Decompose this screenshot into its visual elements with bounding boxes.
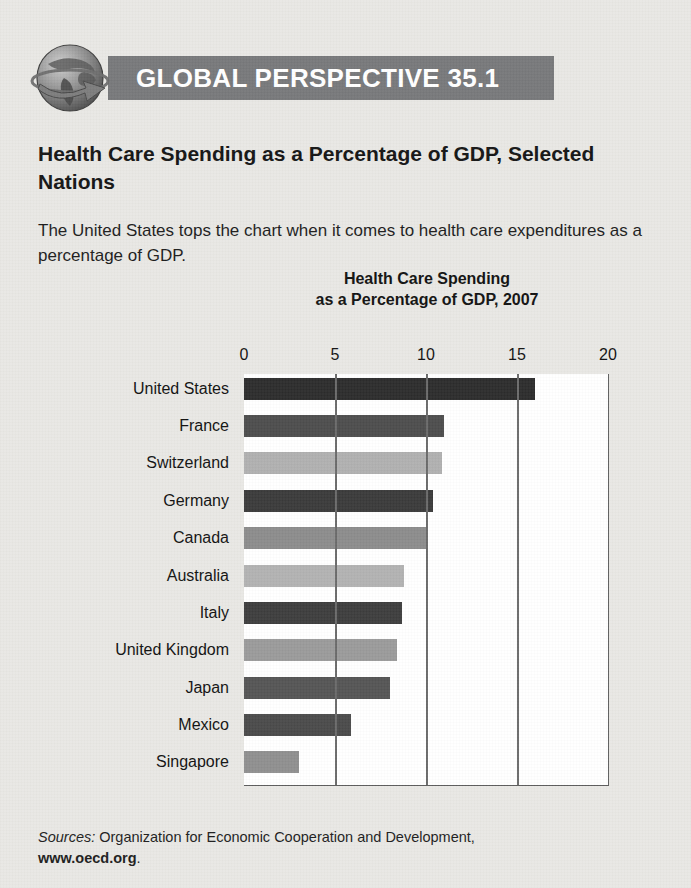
gridline-15 bbox=[517, 374, 519, 785]
category-label-united-states: United States bbox=[133, 381, 229, 397]
bar-chart: Health Care Spending as a Percentage of … bbox=[0, 268, 691, 798]
category-label-canada: Canada bbox=[173, 530, 229, 546]
category-label-australia: Australia bbox=[167, 568, 229, 584]
bar-australia bbox=[244, 565, 404, 587]
y-axis-category-labels: United StatesFranceSwitzerlandGermanyCan… bbox=[0, 374, 238, 785]
sources-text: Organization for Economic Cooperation an… bbox=[95, 829, 475, 845]
bar-fill bbox=[244, 452, 442, 474]
bar-france bbox=[244, 415, 444, 437]
bar-singapore bbox=[244, 751, 299, 773]
bar-japan bbox=[244, 677, 390, 699]
sources-url: www.oecd.org bbox=[38, 850, 137, 866]
gridline-5 bbox=[335, 374, 337, 785]
bar-switzerland bbox=[244, 452, 442, 474]
globe-arrow-icon bbox=[26, 34, 114, 122]
bar-italy bbox=[244, 602, 402, 624]
plot-area bbox=[244, 374, 609, 786]
bar-fill bbox=[244, 677, 390, 699]
bar-fill bbox=[244, 602, 402, 624]
category-label-mexico: Mexico bbox=[178, 717, 229, 733]
x-tick-label-10: 10 bbox=[417, 346, 435, 364]
x-axis-tick-labels: 05101520 bbox=[0, 346, 691, 368]
bar-fill bbox=[244, 565, 404, 587]
chart-title-line2: as a Percentage of GDP, 2007 bbox=[244, 289, 610, 310]
x-tick-label-15: 15 bbox=[508, 346, 526, 364]
bar-united-kingdom bbox=[244, 639, 397, 661]
category-label-singapore: Singapore bbox=[156, 754, 229, 770]
chart-title-line1: Health Care Spending bbox=[344, 270, 510, 287]
global-perspective-banner: GLOBAL PERSPECTIVE 35.1 bbox=[108, 56, 554, 100]
bar-fill bbox=[244, 639, 397, 661]
category-label-switzerland: Switzerland bbox=[146, 455, 229, 471]
category-label-france: France bbox=[179, 418, 229, 434]
sources-note: Sources: Organization for Economic Coope… bbox=[38, 827, 648, 869]
sources-period: . bbox=[137, 850, 141, 866]
sources-label: Sources: bbox=[38, 829, 95, 845]
bar-united-states bbox=[244, 378, 535, 400]
x-tick-label-20: 20 bbox=[599, 346, 617, 364]
chart-title: Health Care Spending as a Percentage of … bbox=[244, 268, 610, 310]
page-title: Health Care Spending as a Percentage of … bbox=[38, 140, 638, 195]
bar-fill bbox=[244, 378, 535, 400]
category-label-italy: Italy bbox=[200, 605, 229, 621]
bar-germany bbox=[244, 490, 433, 512]
category-label-united-kingdom: United Kingdom bbox=[115, 642, 229, 658]
x-tick-label-0: 0 bbox=[240, 346, 249, 364]
x-tick-label-5: 5 bbox=[331, 346, 340, 364]
category-label-germany: Germany bbox=[163, 493, 229, 509]
banner-title: GLOBAL PERSPECTIVE 35.1 bbox=[108, 63, 499, 94]
category-label-japan: Japan bbox=[185, 680, 229, 696]
bar-fill bbox=[244, 415, 444, 437]
feature-description: The United States tops the chart when it… bbox=[38, 219, 648, 268]
bar-fill bbox=[244, 490, 433, 512]
gridline-10 bbox=[426, 374, 428, 785]
bar-fill bbox=[244, 751, 299, 773]
